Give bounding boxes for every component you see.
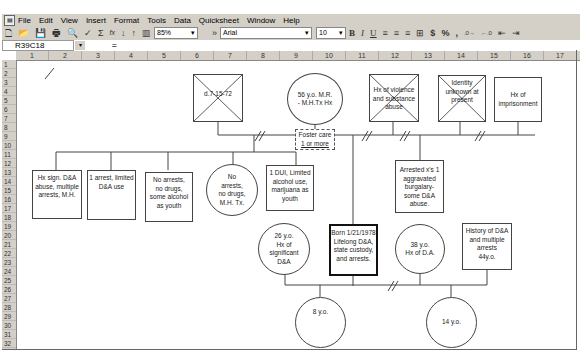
node-label: M.H. Tx. bbox=[220, 199, 244, 208]
node-label: some D&A bbox=[404, 192, 435, 201]
node-label: and arrests. bbox=[336, 255, 370, 264]
node-label: some alcohol bbox=[150, 193, 188, 202]
partner-female-node[interactable]: 38 y.o. Hx of D.A. bbox=[395, 224, 445, 274]
sibling-male-node[interactable]: Hx sign. D&A abuse, multiple arrests, M.… bbox=[32, 170, 82, 219]
node-label: Lifelong D&A, bbox=[334, 238, 374, 247]
node-label: Born 1/21/1978 bbox=[331, 229, 375, 238]
node-label: as youth bbox=[157, 202, 182, 211]
sibling-male-node[interactable]: No arrests, no drugs, some alcohol as yo… bbox=[145, 172, 193, 222]
partner-female-node[interactable]: 26 y.o. Hx of significant D&A bbox=[258, 223, 310, 275]
node-label: Identity bbox=[452, 79, 473, 88]
node-label: youth bbox=[282, 195, 298, 204]
node-label: d.7-15-72 bbox=[204, 90, 232, 99]
node-label: 26 y.o. bbox=[274, 232, 293, 241]
partner-male-node[interactable]: History of D&A and multiple arrests 44y.… bbox=[462, 223, 512, 270]
sibling-female-node[interactable]: No arrests, no drugs, M.H. Tx. bbox=[206, 164, 258, 216]
node-label: and substance bbox=[373, 95, 415, 104]
node-label: arrests, M.H. bbox=[38, 191, 75, 200]
note-label: Foster care bbox=[296, 130, 334, 139]
node-label: alcohol use, bbox=[273, 178, 308, 187]
node-label: arrests, bbox=[221, 182, 243, 191]
child-female-node[interactable]: 14 y.o. bbox=[426, 297, 477, 348]
node-label: imprisonment bbox=[498, 100, 537, 109]
father-male-node[interactable]: Arrested x's 1 aggravated burgalary- som… bbox=[395, 160, 444, 213]
node-label: Hx of D.A. bbox=[405, 249, 435, 258]
node-label: no drugs, bbox=[155, 185, 182, 194]
node-label: - M.H.Tx Hx bbox=[298, 99, 333, 108]
node-label: 1 arrest, limited bbox=[89, 174, 133, 183]
node-label: 56 y.o. M.R. bbox=[298, 91, 333, 100]
male-node-crossed[interactable]: Hx of violence and substance abuse bbox=[369, 74, 419, 122]
node-label: Hx of bbox=[510, 91, 525, 100]
note-label: 1 or more bbox=[296, 139, 334, 148]
node-label: 8 y.o. bbox=[313, 308, 328, 317]
node-label: abuse, multiple bbox=[35, 183, 79, 192]
node-label: burgalary- bbox=[405, 183, 434, 192]
deceased-male-node[interactable]: d.7-15-72 bbox=[193, 74, 243, 122]
node-label: arrests bbox=[477, 244, 497, 253]
node-label: significant bbox=[270, 249, 299, 258]
node-label: No arrests, bbox=[153, 176, 185, 185]
node-label: Hx of violence bbox=[374, 86, 415, 95]
node-label: D&A use bbox=[99, 183, 124, 192]
node-label: unknown at bbox=[445, 88, 478, 97]
client-index-node[interactable]: Born 1/21/1978 Lifelong D&A, state custo… bbox=[329, 224, 378, 276]
node-label: 44y.o. bbox=[478, 253, 495, 262]
sibling-male-node[interactable]: 1 DUI, Limited alcohol use, marijuana as… bbox=[266, 165, 314, 211]
node-label: D&A bbox=[277, 258, 290, 267]
node-label: abuse bbox=[385, 103, 403, 112]
node-label: state custody, bbox=[334, 246, 374, 255]
node-label: abuse. bbox=[410, 200, 430, 209]
node-label: and multiple bbox=[469, 236, 504, 245]
node-label: 1 DUI, Limited bbox=[269, 169, 310, 178]
node-label: marijuana as bbox=[271, 186, 308, 195]
foster-care-note[interactable]: Foster care 1 or more bbox=[295, 129, 335, 150]
node-label: Arrested x's 1 bbox=[400, 166, 440, 175]
node-label: present bbox=[451, 96, 473, 105]
female-node[interactable]: 56 y.o. M.R. - M.H.Tx Hx bbox=[287, 73, 343, 125]
node-label: aggravated bbox=[403, 175, 436, 184]
node-label: Hx sign. D&A bbox=[38, 174, 77, 183]
male-node[interactable]: Hx of imprisonment bbox=[494, 77, 542, 122]
node-label: Hx of bbox=[276, 241, 291, 250]
node-label: No bbox=[228, 173, 236, 182]
child-female-node[interactable]: 8 y.o. bbox=[295, 297, 346, 348]
node-label: no drugs, bbox=[218, 190, 245, 199]
node-label: History of D&A bbox=[466, 227, 509, 236]
node-label: 38 y.o. bbox=[410, 241, 429, 250]
sibling-male-node[interactable]: 1 arrest, limited D&A use bbox=[87, 170, 136, 220]
unknown-male-node[interactable]: Identity unknown at present bbox=[438, 75, 486, 122]
node-label: 14 y.o. bbox=[442, 318, 461, 327]
